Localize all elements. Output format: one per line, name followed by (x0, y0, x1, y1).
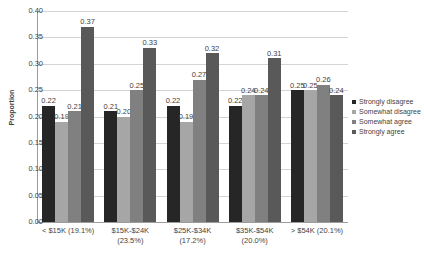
bar-value-label: 0.37 (80, 18, 95, 26)
bar-slot: 0.24 (255, 11, 268, 222)
bar-value-label: 0.22 (166, 97, 181, 105)
x-axis-tick-label: $35K-$54K (20.0%) (224, 226, 286, 256)
bar-slot: 0.37 (81, 11, 94, 222)
bar-slot: 0.25 (291, 11, 304, 222)
bar[interactable] (167, 106, 180, 222)
bar-value-label: 0.21 (67, 103, 82, 111)
bar-value-label: 0.22 (41, 97, 56, 105)
legend-item-label: Somewhat disagree (359, 107, 421, 117)
bar[interactable] (104, 111, 117, 222)
bar-slot: 0.32 (206, 11, 219, 222)
bar[interactable] (81, 27, 94, 222)
bar[interactable] (206, 53, 219, 222)
x-axis-tick-labels: < $15K (19.1%)$15K-$24K (23.5%)$25K-$34K… (37, 226, 348, 256)
gridline (37, 222, 348, 223)
bar[interactable] (180, 122, 193, 222)
bar-slot: 0.25 (130, 11, 143, 222)
bar[interactable] (42, 106, 55, 222)
chart-legend: Strongly disagreeSomewhat disagreeSomewh… (352, 97, 424, 137)
legend-swatch-icon (352, 130, 356, 134)
legend-swatch-icon (352, 110, 356, 114)
bar[interactable] (117, 117, 130, 223)
bar-slot: 0.24 (242, 11, 255, 222)
legend-item-label: Somewhat agree (359, 117, 412, 127)
legend-item[interactable]: Somewhat disagree (352, 107, 424, 117)
bar-slot: 0.19 (180, 11, 193, 222)
bar-group: 0.220.240.240.31 (224, 11, 286, 222)
legend-swatch-icon (352, 100, 356, 104)
bar-groups: 0.220.190.210.370.210.200.250.330.220.19… (37, 11, 348, 222)
bar-value-label: 0.33 (142, 39, 157, 47)
bar-value-label: 0.26 (316, 76, 331, 84)
bar-group: 0.220.190.210.37 (37, 11, 99, 222)
bar-slot: 0.27 (193, 11, 206, 222)
bar-slot: 0.21 (68, 11, 81, 222)
bar-value-label: 0.24 (329, 87, 344, 95)
bar-slot: 0.33 (143, 11, 156, 222)
bar-slot: 0.22 (42, 11, 55, 222)
bar-group: 0.250.250.260.24 (286, 11, 348, 222)
bar[interactable] (68, 111, 81, 222)
x-axis-tick-label: $25K-$34K (17.2%) (161, 226, 223, 256)
bar-value-label: 0.24 (254, 87, 269, 95)
bar-slot: 0.19 (55, 11, 68, 222)
bar-value-label: 0.32 (205, 45, 220, 53)
bar-slot: 0.20 (117, 11, 130, 222)
bar[interactable] (130, 90, 143, 222)
bar-group: 0.210.200.250.33 (99, 11, 161, 222)
bar[interactable] (304, 90, 317, 222)
x-axis-tick-label: $15K-$24K (23.5%) (99, 226, 161, 256)
legend-item[interactable]: Strongly disagree (352, 97, 424, 107)
bar-chart: Proportion 0.000.050.100.150.200.250.300… (0, 0, 424, 259)
bar[interactable] (229, 106, 242, 222)
legend-item[interactable]: Somewhat agree (352, 117, 424, 127)
x-axis-tick-label: > $54K (20.1%) (286, 226, 348, 256)
bar[interactable] (317, 85, 330, 222)
bar[interactable] (55, 122, 68, 222)
y-axis-title: Proportion (8, 73, 15, 143)
bar[interactable] (143, 48, 156, 222)
bar-slot: 0.22 (167, 11, 180, 222)
bar-slot: 0.31 (268, 11, 281, 222)
x-axis-tick-label: < $15K (19.1%) (37, 226, 99, 256)
bar[interactable] (291, 90, 304, 222)
legend-swatch-icon (352, 120, 356, 124)
bar[interactable] (255, 95, 268, 222)
bar-value-label: 0.31 (267, 50, 282, 58)
bar-slot: 0.26 (317, 11, 330, 222)
bar-slot: 0.22 (229, 11, 242, 222)
bar-slot: 0.21 (104, 11, 117, 222)
bar[interactable] (242, 95, 255, 222)
bar-value-label: 0.19 (179, 113, 194, 121)
bar[interactable] (268, 58, 281, 222)
legend-item-label: Strongly disagree (359, 97, 413, 107)
bar[interactable] (193, 80, 206, 222)
bar-value-label: 0.19 (54, 113, 69, 121)
legend-item-label: Strongly agree (359, 127, 405, 137)
bar[interactable] (330, 95, 343, 222)
bar-slot: 0.25 (304, 11, 317, 222)
bar-group: 0.220.190.270.32 (161, 11, 223, 222)
bar-value-label: 0.22 (228, 97, 243, 105)
bar-value-label: 0.20 (116, 108, 131, 116)
bar-value-label: 0.27 (192, 71, 207, 79)
bar-value-label: 0.25 (129, 82, 144, 90)
bar-slot: 0.24 (330, 11, 343, 222)
legend-item[interactable]: Strongly agree (352, 127, 424, 137)
